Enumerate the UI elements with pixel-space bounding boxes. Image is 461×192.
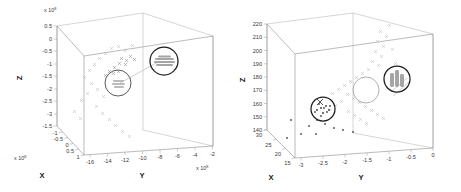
- y-tick-label: 0: [431, 152, 434, 158]
- y-tick-label: -1: [387, 156, 392, 162]
- z-tick-label: -1: [47, 61, 52, 67]
- figure-container: 0.5 0 -0.5 -1 -1.5 -2 -2.5 -3 -1.5 -1 -0…: [0, 0, 461, 192]
- axes-box-back-left: [57, 13, 213, 146]
- x-tick-label: 30: [256, 132, 262, 138]
- z-tick-label: -0.5: [42, 48, 52, 54]
- z-tick-label: 170: [253, 87, 262, 93]
- z-tick-label: 210: [253, 34, 262, 40]
- axes-box-back-right: [267, 13, 433, 148]
- x-axis-title-left: X: [39, 171, 44, 180]
- scatter-markers-left: [73, 44, 175, 138]
- y-axis-title-right: Y: [358, 173, 363, 182]
- y-tick-label: -14: [103, 158, 111, 164]
- cluster-blob-right: [154, 56, 175, 67]
- z-tick-label: 0: [49, 36, 52, 42]
- chart-panel-right: 220 210 200 190 180 170 160 150 140 30 2…: [231, 0, 461, 192]
- x-axis-exponent-left: x 108: [14, 154, 26, 162]
- axes-box-front-right: [267, 24, 433, 158]
- y-tick-label: -10: [138, 155, 146, 161]
- z-axis-ticks-left: 0.5 0 -0.5 -1 -1.5 -2 -2.5 -3: [42, 23, 57, 117]
- z-tick-label: 180: [253, 74, 262, 80]
- y-axis-title-left: Y: [139, 171, 144, 180]
- y-tick-label: -2: [210, 151, 215, 157]
- y-tick-label: -16: [86, 159, 94, 165]
- z-tick-label: 190: [253, 61, 262, 67]
- cluster-blob-right: [390, 70, 404, 87]
- y-tick-label: -2.5: [318, 160, 328, 166]
- y-tick-label: -0.5: [406, 154, 416, 160]
- x-axis-ticks-left: -1.5 -1 -0.5 0 0.5 1: [42, 123, 84, 160]
- z-tick-label: 150: [253, 114, 262, 120]
- y-axis-ticks-right: -3 -2.5 -2 -1.5 -1 -0.5 0: [299, 148, 435, 168]
- z-tick-label: 160: [253, 101, 262, 107]
- scatter-markers-right: [286, 24, 409, 139]
- z-tick-label: 0.5: [44, 23, 52, 29]
- y-axis-exponent-left: x 108: [196, 164, 208, 172]
- cluster-marks-left-circle: [316, 99, 330, 114]
- y-tick-label: -6: [175, 153, 180, 159]
- x-axis-ticks-right: 30 25 20 15: [256, 130, 295, 166]
- x-axis-title-right: X: [268, 173, 273, 182]
- highlight-circle-dark-left: [311, 97, 335, 121]
- y-tick-label: -12: [121, 157, 129, 163]
- z-axis-title-left: Z: [15, 75, 24, 80]
- z-tick-label: -2: [47, 86, 52, 92]
- y-tick-label: -2: [343, 159, 348, 165]
- z-tick-label: 200: [253, 48, 262, 54]
- z-tick-label: -3: [47, 111, 52, 117]
- y-tick-label: -1.5: [362, 157, 372, 163]
- x-tick-label: 20: [275, 151, 281, 157]
- y-tick-label: -8: [158, 154, 163, 160]
- y-axis-ticks-left: -16 -14 -12 -10 -8 -6 -4 -2: [86, 146, 215, 165]
- x-tick-label: 15: [284, 160, 290, 166]
- z-tick-label: 220: [253, 21, 262, 27]
- x-tick-label: -0.5: [53, 136, 63, 142]
- y-tick-label: -3: [299, 162, 304, 168]
- y-tick-label: -4: [193, 152, 198, 158]
- x-tick-label: 1: [76, 154, 79, 160]
- z-axis-exponent-left: x 108: [44, 6, 56, 14]
- highlight-circle-light-mid: [353, 77, 379, 103]
- chart-svg-left: 0.5 0 -0.5 -1 -1.5 -2 -2.5 -3 -1.5 -1 -0…: [0, 0, 230, 192]
- z-tick-label: -2.5: [42, 98, 52, 104]
- chart-svg-right: 220 210 200 190 180 170 160 150 140 30 2…: [231, 0, 461, 192]
- x-tick-label: -1.5: [42, 123, 52, 129]
- axes-box-front-left: [57, 26, 213, 155]
- z-tick-label: -1.5: [42, 73, 52, 79]
- z-axis-title-right: Z: [238, 77, 247, 82]
- x-tick-label: 0.5: [66, 148, 74, 154]
- z-axis-ticks-right: 220 210 200 190 180 170 160 150 140: [253, 21, 267, 133]
- chart-panel-left: 0.5 0 -0.5 -1 -1.5 -2 -2.5 -3 -1.5 -1 -0…: [0, 0, 230, 192]
- x-tick-label: 25: [265, 142, 271, 148]
